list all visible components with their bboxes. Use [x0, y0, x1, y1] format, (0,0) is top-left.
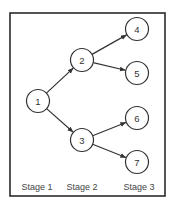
node-3: 3: [71, 129, 94, 152]
node-label: 3: [79, 135, 84, 146]
stage-label-3: Stage 3: [123, 182, 154, 192]
node-label: 5: [134, 68, 139, 79]
node-4: 4: [126, 18, 149, 41]
node-label: 2: [79, 55, 84, 66]
stage-label-1: Stage 1: [21, 182, 52, 192]
node-2: 2: [71, 49, 94, 72]
node-label: 6: [134, 113, 139, 124]
node-1: 1: [27, 90, 50, 113]
node-label: 4: [134, 24, 139, 35]
node-6: 6: [126, 107, 149, 130]
node-5: 5: [126, 62, 149, 85]
tree-diagram: 1234567 Stage 1Stage 2Stage 3: [0, 0, 176, 207]
node-7: 7: [126, 151, 149, 174]
node-label: 1: [35, 96, 40, 107]
stage-labels-group: Stage 1Stage 2Stage 3: [21, 182, 154, 192]
node-label: 7: [134, 157, 139, 168]
stage-label-2: Stage 2: [66, 182, 97, 192]
